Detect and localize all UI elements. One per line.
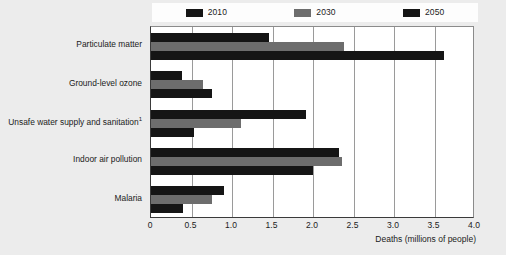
x-tick-label-5: 2.5: [347, 220, 359, 230]
legend-label-2050: 2050: [425, 8, 444, 17]
bar-group-1: [151, 71, 473, 98]
bar-2010-4[interactable]: [151, 186, 224, 195]
category-label-2: Unsafe water supply and sanitation1: [8, 116, 142, 127]
category-label-text-1: Ground-level ozone: [69, 78, 142, 88]
x-tick-label-8: 4.0: [468, 220, 480, 230]
legend-item-2010[interactable]: 2010: [186, 8, 227, 17]
bar-2030-4[interactable]: [151, 195, 212, 204]
bar-2010-3[interactable]: [151, 148, 339, 157]
x-axis-tick-labels: 00.51.01.52.02.53.03.54.0: [150, 220, 474, 234]
legend-label-2010: 2010: [208, 8, 227, 17]
bar-2030-1[interactable]: [151, 80, 203, 89]
bar-group-4: [151, 186, 473, 213]
bar-2050-3[interactable]: [151, 166, 313, 175]
legend-item-2050[interactable]: 2050: [403, 8, 444, 17]
legend-swatch-2050: [403, 9, 420, 17]
y-axis-category-labels: Particulate matterGround-level ozoneUnsa…: [0, 26, 146, 218]
bar-2010-0[interactable]: [151, 33, 269, 42]
category-label-1: Ground-level ozone: [69, 78, 142, 88]
bar-2050-4[interactable]: [151, 204, 183, 213]
x-tick-label-6: 3.0: [387, 220, 399, 230]
legend-swatch-2030: [294, 9, 311, 17]
x-tick-label-2: 1.0: [225, 220, 237, 230]
legend-item-2030[interactable]: 2030: [294, 8, 335, 17]
bar-2010-2[interactable]: [151, 110, 306, 119]
plot-area: [150, 26, 474, 218]
category-label-4: Malaria: [115, 193, 142, 203]
x-tick-label-1: 0.5: [185, 220, 197, 230]
x-tick-label-4: 2.0: [306, 220, 318, 230]
x-tick-label-7: 3.5: [428, 220, 440, 230]
category-label-text-2: Unsafe water supply and sanitation: [8, 117, 138, 127]
chart-legend: 201020302050: [152, 3, 478, 22]
bar-2030-2[interactable]: [151, 119, 241, 128]
x-axis-title: Deaths (millions of people): [375, 234, 476, 244]
legend-swatch-2010: [186, 9, 203, 17]
bar-group-0: [151, 33, 473, 60]
x-tick-label-3: 1.5: [266, 220, 278, 230]
category-label-text-0: Particulate matter: [76, 39, 142, 49]
category-label-3: Indoor air pollution: [73, 154, 142, 164]
bar-group-3: [151, 148, 473, 175]
bar-2050-2[interactable]: [151, 128, 194, 137]
category-label-0: Particulate matter: [76, 39, 142, 49]
chart-figure: 201020302050 Particulate matterGround-le…: [0, 0, 506, 255]
bar-2050-0[interactable]: [151, 51, 444, 60]
bar-2030-0[interactable]: [151, 42, 344, 51]
category-label-text-3: Indoor air pollution: [73, 154, 142, 164]
bar-2010-1[interactable]: [151, 71, 182, 80]
bar-2050-1[interactable]: [151, 89, 212, 98]
category-label-text-4: Malaria: [115, 193, 142, 203]
x-tick-label-0: 0: [148, 220, 153, 230]
legend-label-2030: 2030: [316, 8, 335, 17]
bar-group-2: [151, 110, 473, 137]
bar-2030-3[interactable]: [151, 157, 342, 166]
category-footnote-marker-2: 1: [139, 116, 142, 122]
